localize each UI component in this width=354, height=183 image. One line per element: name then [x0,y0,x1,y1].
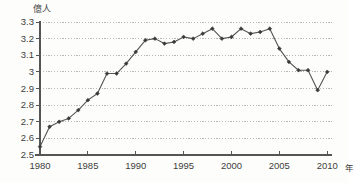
y-tick-marks-group [36,22,40,155]
y-axis-tick-label: 2.8 [10,99,34,110]
gridlines-group [40,22,332,138]
x-axis-tick-label: 1990 [119,160,153,171]
y-axis-tick-label: 2.5 [10,149,34,160]
data-series-line [40,29,327,147]
y-axis-tick-label: 2.7 [10,116,34,127]
x-axis-tick-label: 2005 [262,160,296,171]
y-axis-tick-label: 3.2 [10,33,34,44]
x-axis-tick-label: 2000 [214,160,248,171]
x-axis-tick-label: 1995 [167,160,201,171]
y-axis-tick-label: 2.9 [10,83,34,94]
data-series-markers [38,27,329,149]
y-axis-unit-label: 億人 [33,2,51,15]
x-axis-tick-label: 1985 [71,160,105,171]
x-tick-marks-group [40,151,327,155]
y-axis-tick-label: 3.3 [10,16,34,27]
x-axis-unit-label: 年 [345,161,354,173]
y-axis-tick-label: 3.1 [10,49,34,60]
axes-group [35,21,332,155]
y-axis-tick-label: 2.6 [10,132,34,143]
x-axis-tick-label: 2010 [310,160,344,171]
x-axis-tick-label: 1980 [23,160,57,171]
y-axis-tick-label: 3 [10,66,34,77]
